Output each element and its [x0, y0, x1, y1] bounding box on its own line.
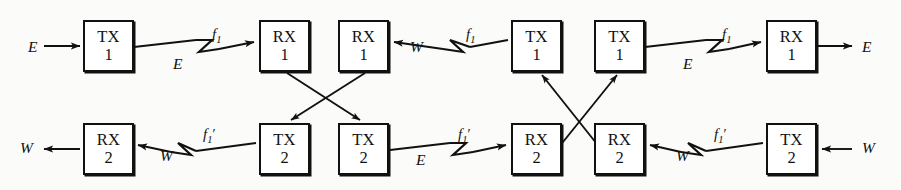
direction-label-e-in-left: E [28, 39, 37, 55]
direction-label-e-hop5: E [416, 152, 425, 168]
node-rx2-a[interactable]: RX 2 [83, 123, 134, 175]
frequency-label-f1prime-hop4: f1′ [203, 127, 215, 146]
node-kind-label: RX [525, 132, 548, 149]
node-kind-label: TX [525, 29, 547, 46]
node-number-label: 2 [532, 150, 540, 167]
direction-label-w-hop6: W [676, 148, 689, 164]
link-tx2-b-seg1 [390, 143, 450, 150]
link-tx1-c-seg2 [729, 42, 761, 49]
node-kind-label: RX [780, 29, 803, 46]
node-kind-label: RX [608, 132, 631, 149]
direction-label-e-out-right: E [862, 39, 871, 55]
node-kind-label: RX [273, 29, 296, 46]
node-kind-label: RX [97, 132, 120, 149]
node-tx1-b[interactable]: TX 1 [511, 20, 562, 72]
cross-link-1b [291, 73, 365, 120]
node-number-label: 1 [787, 47, 795, 64]
link-tx2-b-seg2 [473, 145, 506, 152]
node-kind-label: TX [352, 132, 374, 149]
node-kind-label: TX [97, 29, 119, 46]
node-rx1-c[interactable]: RX 1 [766, 20, 817, 72]
node-kind-label: TX [608, 29, 630, 46]
node-rx1-a[interactable]: RX 1 [259, 20, 310, 72]
direction-label-w-hop4: W [160, 148, 173, 164]
node-kind-label: TX [780, 132, 802, 149]
node-rx1-b[interactable]: RX 1 [338, 20, 389, 72]
node-tx1-a[interactable]: TX 1 [83, 20, 134, 72]
node-tx2-c[interactable]: TX 2 [766, 123, 817, 175]
node-number-label: 1 [280, 47, 288, 64]
link-tx1-c-seg1 [645, 40, 706, 47]
direction-label-w-out-left: W [20, 140, 33, 156]
node-number-label: 2 [787, 150, 795, 167]
node-kind-label: RX [352, 29, 375, 46]
node-rx2-b[interactable]: RX 2 [511, 123, 562, 175]
frequency-label-f1-hop1: f1 [212, 27, 221, 46]
node-tx1-c[interactable]: TX 1 [594, 20, 645, 72]
link-tx1-a-seg1 [134, 40, 196, 47]
node-number-label: 1 [615, 47, 623, 64]
node-number-label: 1 [359, 47, 367, 64]
relay-chain-diagram: TX 1 RX 1 RX 1 TX 1 TX 1 RX 1 RX 2 TX 2 … [0, 0, 901, 190]
node-number-label: 2 [359, 150, 367, 167]
zigzag-icon-4 [171, 143, 196, 155]
direction-label-w-hop2: W [410, 39, 423, 55]
node-number-label: 1 [532, 47, 540, 64]
node-number-label: 2 [280, 150, 288, 167]
direction-label-e-hop1: E [173, 56, 182, 72]
link-tx1-b-seg1 [470, 40, 508, 47]
direction-label-e-hop3: E [683, 56, 692, 72]
node-tx2-b[interactable]: TX 2 [338, 123, 389, 175]
cross-link-1a [287, 73, 360, 120]
node-number-label: 2 [104, 150, 112, 167]
node-kind-label: TX [273, 132, 295, 149]
link-tx1-a-seg2 [219, 42, 254, 49]
node-rx2-c[interactable]: RX 2 [594, 123, 645, 175]
node-tx2-a[interactable]: TX 2 [259, 123, 310, 175]
frequency-label-f1-hop2: f1 [466, 27, 475, 46]
frequency-label-f1prime-hop6: f1′ [714, 127, 726, 146]
node-number-label: 2 [615, 150, 623, 167]
frequency-label-f1-hop3: f1 [722, 27, 731, 46]
direction-label-w-in-right: W [862, 140, 875, 156]
node-number-label: 1 [104, 47, 112, 64]
frequency-label-f1prime-hop5: f1′ [458, 127, 470, 146]
